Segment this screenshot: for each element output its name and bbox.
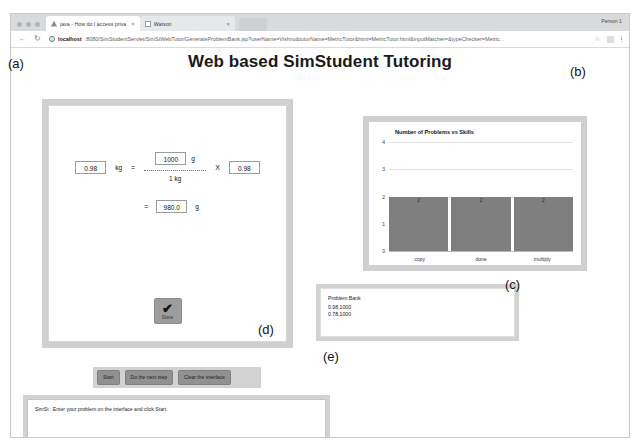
browser-tab-1[interactable]: Watson × [140, 16, 235, 31]
bar-done[interactable]: 2 [451, 197, 510, 252]
close-window-icon[interactable] [35, 22, 40, 27]
kebab-menu-icon[interactable] [621, 36, 623, 43]
bar-value-multiply: 2 [514, 198, 573, 203]
x-tick-copy: copy [389, 256, 450, 262]
annotation-b: (b) [570, 64, 586, 79]
x-tick-multiply: multiply [512, 256, 573, 262]
close-icon[interactable]: × [227, 21, 231, 27]
profile-label[interactable]: Person 1 [601, 18, 622, 24]
page-body: Web based SimStudent Tutoring 0.98 kg = … [11, 48, 629, 437]
conversion-fraction: 1000 g 1 kg [144, 152, 206, 182]
bar-value-copy: 2 [389, 198, 448, 203]
annotation-a: (a) [8, 56, 24, 71]
tutor-interface-panel: 0.98 kg = 1000 g 1 kg X [42, 99, 293, 348]
done-button-label: Done [162, 315, 173, 320]
site-info-icon[interactable]: i [49, 36, 55, 42]
url-input[interactable]: i localhost:8080/SimStudentServlet/SimSt… [49, 36, 586, 42]
given-value-input[interactable]: 0.98 [75, 161, 106, 174]
equals-sign-2: = [144, 203, 148, 210]
x-axis-line [389, 251, 573, 252]
y-tick-4: 4 [382, 139, 385, 145]
bar-copy[interactable]: 2 [389, 197, 448, 252]
fraction-numerator: 1000 g [155, 152, 195, 165]
browser-tabstrip: java - How do I access priva × Watson × … [11, 14, 629, 31]
y-tick-3: 3 [382, 166, 385, 172]
extension-icon[interactable] [607, 36, 614, 43]
chart-plot-area: 4 3 2 1 0 [377, 142, 573, 251]
fraction-bar [144, 170, 206, 171]
y-tick-0: 0 [382, 248, 385, 254]
annotation-d: (d) [258, 322, 274, 337]
browser-tab-0-title: java - How do I access priva [60, 21, 126, 27]
browser-tab-0[interactable]: java - How do I access priva × [46, 16, 140, 31]
bar-group-done: 2 [451, 142, 510, 251]
bar-value-done: 2 [451, 198, 510, 203]
multiply-sign: X [215, 164, 220, 171]
bookmark-star-icon[interactable]: ☆ [594, 35, 600, 43]
new-tab-button[interactable] [239, 18, 267, 31]
bar-multiply[interactable]: 2 [514, 197, 573, 252]
chart-y-axis: 4 3 2 1 0 [377, 142, 389, 251]
equation-row-2: = 980.0 g [49, 200, 286, 213]
problem-bank-list: Problem Bank 0.98,1000 0.78,1000 [320, 288, 515, 337]
screenshot-root: java - How do I access priva × Watson × … [0, 0, 640, 444]
page-title: Web based SimStudent Tutoring [11, 48, 629, 72]
browser-omnibox: ← ↻ i localhost:8080/SimStudentServlet/S… [11, 31, 629, 48]
tutor-interface-canvas: 0.98 kg = 1000 g 1 kg X [48, 105, 287, 342]
url-host: localhost [58, 36, 82, 42]
browser-tab-1-title: Watson [154, 21, 172, 27]
list-item[interactable]: 0.78,1000 [328, 311, 514, 319]
window-controls[interactable] [11, 22, 46, 31]
url-path: :8080/SimStudentServlet/SimStWebTutor/Ge… [85, 36, 504, 42]
clear-interface-button[interactable]: Clear the interface [178, 370, 231, 385]
chart-title: Number of Problems vs Skills [395, 129, 573, 135]
numerator-value-input[interactable]: 1000 [155, 152, 186, 165]
do-next-step-button[interactable]: Do the next step [125, 370, 173, 385]
java-icon [51, 21, 57, 27]
numerator-unit-label: g [191, 155, 195, 162]
multiplier-value-input[interactable]: 0.98 [229, 161, 260, 174]
chart-bars: 2 2 2 [389, 142, 573, 251]
bar-group-multiply: 2 [514, 142, 573, 251]
equation-row-1: 0.98 kg = 1000 g 1 kg X [49, 152, 286, 182]
dialog-panel: Yes No [23, 395, 330, 437]
y-tick-1: 1 [382, 221, 385, 227]
back-icon[interactable]: ← [18, 35, 26, 43]
list-item[interactable]: 0.98,1000 [328, 304, 514, 312]
fraction-denominator: 1 kg [169, 175, 181, 182]
bar-group-copy: 2 [389, 142, 448, 251]
check-icon: ✔ [162, 303, 173, 314]
skills-chart-panel: Number of Problems vs Skills 4 3 2 1 0 [363, 116, 587, 271]
x-tick-done: done [450, 256, 511, 262]
conversion-equation: 0.98 kg = 1000 g 1 kg X [49, 152, 286, 213]
problem-bank-panel: Problem Bank 0.98,1000 0.78,1000 [316, 284, 519, 341]
dialog-message-box[interactable] [27, 399, 326, 437]
given-unit-label: kg [115, 164, 122, 171]
equals-sign-1: = [131, 164, 135, 171]
minimize-icon[interactable] [17, 22, 22, 27]
result-value-input[interactable]: 980.0 [156, 200, 187, 213]
y-tick-2: 2 [382, 194, 385, 200]
problem-bank-title: Problem Bank [328, 295, 514, 301]
omnibox-actions: ☆ [594, 35, 623, 43]
page-icon [145, 21, 151, 27]
browser-window: java - How do I access priva × Watson × … [10, 13, 630, 438]
close-icon[interactable]: × [131, 21, 135, 27]
chart-x-axis: copy done multiply [389, 256, 573, 262]
reload-icon[interactable]: ↻ [34, 35, 41, 43]
annotation-c: (c) [505, 277, 520, 292]
tutor-controls-panel: Start Do the next step Clear the interfa… [93, 367, 261, 388]
maximize-icon[interactable] [26, 22, 31, 27]
start-button[interactable]: Start [97, 370, 120, 385]
result-unit-label: g [195, 203, 199, 210]
annotation-e: (e) [323, 349, 339, 364]
done-button[interactable]: ✔ Done [154, 298, 182, 324]
skills-chart: Number of Problems vs Skills 4 3 2 1 0 [369, 122, 581, 265]
